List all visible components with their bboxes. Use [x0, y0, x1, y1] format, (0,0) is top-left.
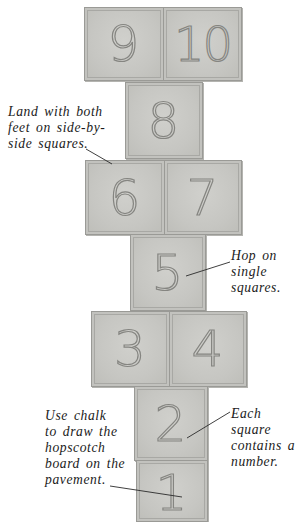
- square-number: 10: [164, 20, 241, 68]
- annotation-side-by-side: Land with both feet on side-by- side squ…: [8, 104, 105, 152]
- annotation-line: side squares.: [8, 136, 105, 152]
- square-2: 2: [134, 386, 208, 461]
- annotation-each-square: Each square contains a number.: [231, 406, 306, 470]
- square-number: 9: [85, 19, 163, 69]
- square-5: 5: [130, 234, 206, 311]
- square-7: 7: [164, 160, 242, 235]
- square-number: 5: [131, 248, 205, 298]
- annotation-line: board on the: [45, 456, 125, 472]
- square-3: 3: [91, 311, 170, 387]
- annotation-line: Use chalk: [45, 408, 125, 424]
- square-8: 8: [125, 82, 203, 159]
- annotation-line: squares.: [231, 280, 281, 296]
- square-4: 4: [169, 311, 247, 387]
- annotation-line: to draw the: [45, 424, 125, 440]
- annotation-line: hopscotch: [45, 440, 125, 456]
- annotation-use-chalk: Use chalk to draw the hopscotch board on…: [45, 408, 125, 488]
- square-9: 9: [84, 7, 164, 81]
- square-number: 6: [86, 173, 164, 223]
- square-number: 3: [92, 324, 169, 374]
- square-number: 1: [137, 468, 207, 518]
- square-1: 1: [136, 460, 208, 522]
- square-6: 6: [85, 160, 165, 235]
- square-number: 8: [126, 96, 202, 146]
- annotation-line: Hop on: [231, 248, 281, 264]
- annotation-line: feet on side-by-: [8, 120, 105, 136]
- square-10: 10: [163, 7, 242, 81]
- annotation-line: number.: [231, 454, 306, 470]
- annotation-line: Land with both: [8, 104, 105, 120]
- square-number: 4: [170, 324, 246, 374]
- annotation-line: single: [231, 264, 281, 280]
- square-number: 2: [135, 399, 207, 449]
- annotation-line: Each square: [231, 406, 306, 438]
- annotation-line: pavement.: [45, 472, 125, 488]
- annotation-hop-single: Hop on single squares.: [231, 248, 281, 296]
- square-number: 7: [165, 173, 241, 223]
- annotation-line: contains a: [231, 438, 306, 454]
